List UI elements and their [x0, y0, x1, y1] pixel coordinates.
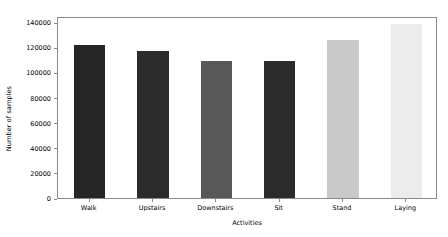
y-tick-label: 60000	[10, 120, 51, 128]
bar-walk	[74, 45, 106, 198]
x-tick-label: Stand	[333, 204, 352, 212]
x-tick-mark	[89, 199, 90, 202]
bar-sit	[264, 61, 296, 198]
y-tick-label: 20000	[10, 170, 51, 178]
x-tick-mark	[215, 199, 216, 202]
x-tick-label: Upstairs	[139, 204, 166, 212]
bar-stand	[327, 40, 359, 198]
y-tick-label: 0	[10, 195, 51, 203]
y-tick-label: 40000	[10, 145, 51, 153]
bar-downstairs	[201, 61, 233, 198]
x-tick-mark	[342, 199, 343, 202]
y-tick-label: 80000	[10, 95, 51, 103]
x-tick-mark	[279, 199, 280, 202]
x-tick-label: Laying	[395, 204, 417, 212]
bar-chart-figure: Number of samples 0200004000060000800001…	[0, 0, 448, 237]
y-tick-label: 100000	[10, 69, 51, 77]
x-tick-label: Sit	[274, 204, 282, 212]
x-tick-label: Downstairs	[197, 204, 233, 212]
y-tick-label: 140000	[10, 19, 51, 27]
x-tick-mark	[152, 199, 153, 202]
y-tick-label: 120000	[10, 44, 51, 52]
plot-area	[57, 17, 437, 199]
x-axis-title: Activities	[232, 219, 262, 227]
bar-laying	[391, 24, 423, 198]
x-tick-mark	[405, 199, 406, 202]
x-tick-label: Walk	[81, 204, 97, 212]
bar-upstairs	[137, 51, 169, 198]
